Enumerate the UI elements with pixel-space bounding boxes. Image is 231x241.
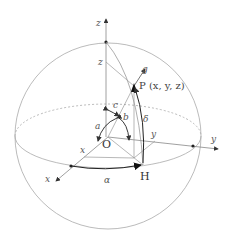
y-axis xyxy=(108,137,218,149)
label-angle-delta: δ xyxy=(143,114,148,124)
label-angle-c: c xyxy=(113,100,118,110)
label-y-axis: y xyxy=(210,134,217,144)
label-origin: O xyxy=(102,138,111,151)
label-point-p: P (x, y, z) xyxy=(139,80,185,91)
label-x-axis: x xyxy=(45,174,50,184)
angle-c-arc xyxy=(108,110,119,116)
sphere-outline xyxy=(15,43,201,229)
equator-back xyxy=(15,104,201,136)
oh-line xyxy=(108,137,143,165)
x-coord-line xyxy=(84,157,134,158)
y-coord-line xyxy=(134,141,155,158)
meridian-arc xyxy=(106,42,143,165)
label-angle-a: a xyxy=(95,121,100,131)
label-angle-b: b xyxy=(123,112,129,122)
label-angle-alpha: α xyxy=(104,175,110,185)
label-point-h: H xyxy=(140,170,150,183)
label-y-coord: y xyxy=(150,129,157,139)
label-gravity: g xyxy=(142,64,148,74)
label-x-coord: x xyxy=(80,145,85,155)
label-z-axis: z xyxy=(95,18,101,28)
y-sphere-dot xyxy=(191,144,194,147)
x-axis xyxy=(56,137,108,181)
z-coord-line xyxy=(106,62,134,86)
label-z-coord: z xyxy=(97,57,103,67)
sphere-diagram: z z g P (x, y, z) c b δ a O y y x α H x xyxy=(0,0,231,241)
